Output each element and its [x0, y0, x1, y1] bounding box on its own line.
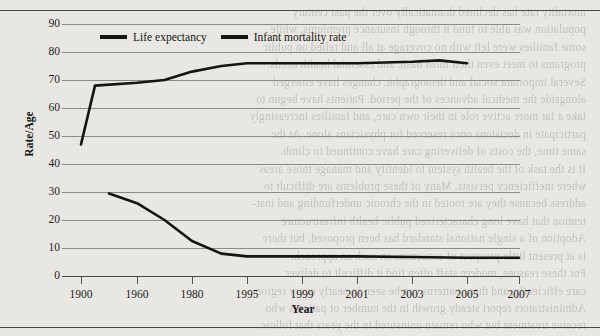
- page-rule-bottom: [0, 327, 600, 328]
- legend-label: Infant mortality rate: [254, 31, 347, 43]
- chart-legend: Life expectancy Infant mortality rate: [100, 31, 346, 43]
- legend-swatch-icon: [221, 35, 248, 38]
- series-line-infant-mortality-rate: [109, 193, 519, 257]
- legend-item-infant-mortality-rate: Infant mortality rate: [221, 31, 347, 43]
- plot-area: [0, 0, 600, 336]
- legend-swatch-icon: [100, 35, 127, 38]
- legend-item-life-expectancy: Life expectancy: [100, 31, 207, 43]
- line-chart: 90 80 70 60 50 40 30 20 10 0 Rate/Age 19…: [0, 0, 600, 336]
- legend-label: Life expectancy: [133, 31, 207, 43]
- page-rule-top: [0, 10, 600, 11]
- series-line-life-expectancy: [81, 60, 467, 144]
